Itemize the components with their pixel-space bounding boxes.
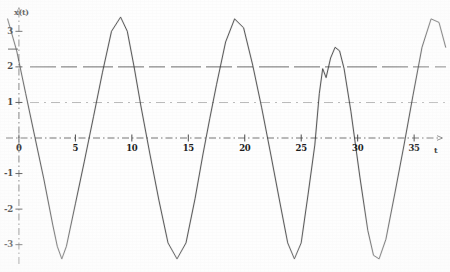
- reference-line-group: [30, 67, 446, 103]
- x-tick-label: 5: [63, 144, 87, 153]
- plot-svg: [0, 0, 450, 272]
- x-tick-label: 10: [120, 144, 144, 153]
- y-axis-title: x(t): [14, 8, 29, 16]
- x-tick-label: 35: [402, 144, 426, 153]
- x-axis-title: t: [434, 146, 437, 154]
- y-tick-label: -1: [0, 169, 13, 178]
- x-tick-label: 15: [176, 144, 200, 153]
- y-tick-label: 3: [0, 27, 13, 36]
- y-tick-label: 2: [0, 62, 13, 71]
- x-tick-label: 20: [233, 144, 257, 153]
- figure-canvas: 321-1-2-305101520253035 x(t) t: [0, 0, 450, 272]
- y-tick-label: -3: [0, 240, 13, 249]
- x-tick-label: 0: [7, 144, 31, 153]
- y-tick-label: 1: [0, 98, 13, 107]
- x-tick-label: 25: [289, 144, 313, 153]
- y-tick-label: -2: [0, 205, 13, 214]
- x-tick-label: 30: [346, 144, 370, 153]
